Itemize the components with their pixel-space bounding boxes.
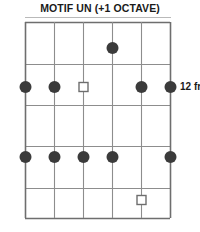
- note-marker-dot-string-3: [78, 151, 90, 163]
- note-marker-dot-string-2: [49, 81, 61, 93]
- note-marker-dot-string-5: [136, 81, 148, 93]
- note-marker-dot-string-4: [107, 151, 119, 163]
- note-marker-open-square-string-5: [137, 196, 146, 205]
- fretboard-grid: [0, 0, 200, 232]
- fret-position-label-left-clipped: r: [0, 81, 3, 92]
- fret-position-label-right: 12 fr: [180, 81, 200, 92]
- note-marker-dot-string-1: [20, 81, 32, 93]
- fretboard-diagram: MOTIF UN (+1 OCTAVE) 12 fr r: [0, 0, 200, 232]
- note-marker-dot-string-6: [165, 81, 177, 93]
- note-marker-dot-string-4: [107, 42, 119, 54]
- note-marker-dot-string-1: [20, 151, 32, 163]
- note-marker-dot-string-6: [165, 151, 177, 163]
- note-marker-open-square-string-3: [79, 83, 88, 92]
- note-marker-dot-string-2: [49, 151, 61, 163]
